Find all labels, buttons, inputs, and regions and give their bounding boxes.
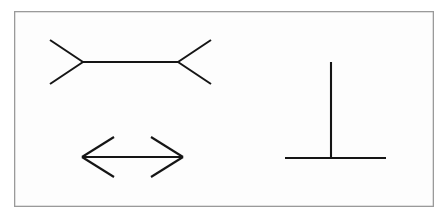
illusion-figure-canvas: Muller-Lyer and vertical-horizontal illu… (0, 0, 448, 217)
figure-border-frame (15, 12, 434, 207)
illusion-figure-root: Muller-Lyer and vertical-horizontal illu… (0, 0, 448, 217)
